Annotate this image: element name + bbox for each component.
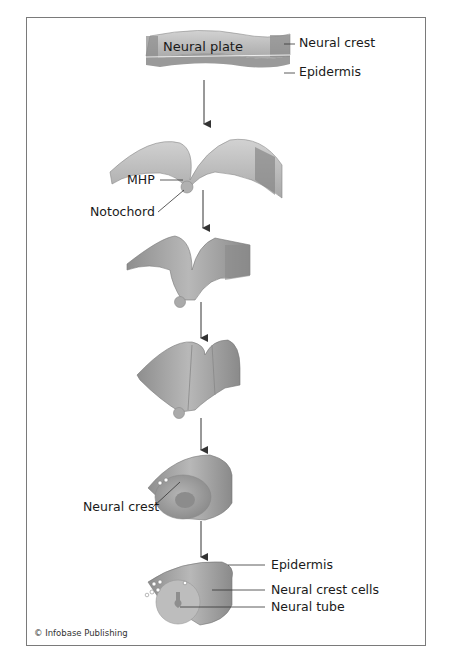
label-epidermis-bottom: Epidermis (271, 559, 333, 572)
label-neural-plate: Neural plate (163, 40, 243, 53)
stage-2-neural-groove (110, 139, 282, 198)
label-neural-crest-top: Neural crest (299, 37, 375, 50)
neurulation-illustration (0, 0, 450, 666)
copyright-credit: © Infobase Publishing (34, 628, 128, 638)
label-notochord: Notochord (90, 206, 155, 219)
stage-6-neural-tube (145, 562, 232, 625)
stage-4-converging-folds (137, 340, 240, 419)
label-mhp: MHP (127, 174, 155, 187)
leader-notochord (158, 190, 184, 212)
label-epidermis-top: Epidermis (299, 66, 361, 79)
label-neural-tube: Neural tube (271, 601, 345, 614)
stage-5-tube-closing (148, 455, 232, 520)
label-neural-crest-mid: Neural crest (83, 501, 159, 514)
label-neural-crest-cells: Neural crest cells (271, 584, 379, 597)
stage-3-neural-folds (127, 236, 250, 308)
